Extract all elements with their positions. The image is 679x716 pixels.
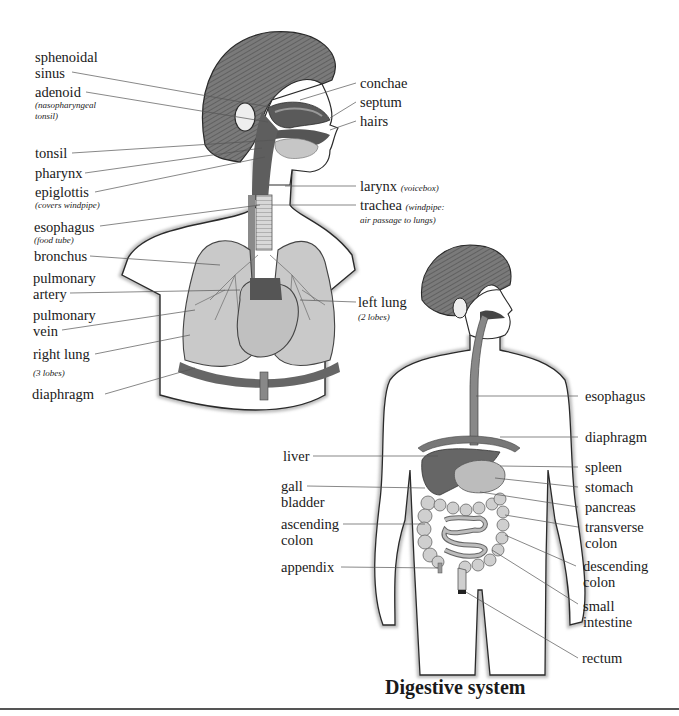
label-text: liver xyxy=(283,448,310,464)
label-line: transverse xyxy=(585,519,644,535)
label-note: tonsil) xyxy=(35,111,96,122)
label-line: gall xyxy=(281,478,303,494)
label-text: rectum xyxy=(582,650,622,666)
anatomy-illustrations xyxy=(0,0,679,716)
label-text: hairs xyxy=(360,113,388,129)
label-line: bladder xyxy=(281,494,324,510)
label-note: (windpipe: xyxy=(405,202,444,212)
label-left-lung: left lung (2 lobes) xyxy=(358,294,407,323)
label-conchae: conchae xyxy=(360,75,408,91)
label-sphenoidal-sinus: sphenoidal sinus xyxy=(35,49,98,81)
bottom-divider xyxy=(0,708,679,710)
label-line: descending xyxy=(583,558,648,574)
label-text: esophagus xyxy=(34,219,94,235)
label-line: artery xyxy=(33,286,67,302)
label-line: pulmonary xyxy=(33,270,96,286)
label-line: sinus xyxy=(35,65,65,81)
label-line: intestine xyxy=(583,614,632,630)
label-esophagus-dig: esophagus xyxy=(585,388,645,404)
label-hairs: hairs xyxy=(360,113,388,129)
label-text: trachea xyxy=(360,197,402,213)
label-note: (2 lobes) xyxy=(358,312,407,323)
label-bronchus: bronchus xyxy=(34,248,87,264)
label-larynx: larynx (voicebox) xyxy=(360,178,439,196)
label-text: left lung xyxy=(358,294,407,310)
label-descending-colon: descending colon xyxy=(583,558,648,590)
label-stomach: stomach xyxy=(585,479,633,495)
label-note: (food tube) xyxy=(34,235,94,246)
label-tonsil: tonsil xyxy=(35,145,67,161)
label-pulmonary-vein: pulmonary vein xyxy=(33,307,96,339)
label-right-lung: right lung (3 lobes) xyxy=(33,346,90,379)
label-note: (3 lobes) xyxy=(33,368,90,379)
label-pancreas: pancreas xyxy=(585,499,636,515)
label-text: spleen xyxy=(585,459,622,475)
label-text: pancreas xyxy=(585,499,636,515)
label-line: colon xyxy=(585,535,617,551)
label-note: (covers windpipe) xyxy=(35,200,100,211)
label-note: (nasopharyngeal xyxy=(35,100,96,111)
label-text: bronchus xyxy=(34,248,87,264)
label-line: colon xyxy=(281,532,313,548)
respiratory-figure xyxy=(122,32,355,410)
label-note: air passage to lungs) xyxy=(360,215,444,226)
label-line: sphenoidal xyxy=(35,49,98,65)
label-text: diaphragm xyxy=(32,386,94,402)
label-text: stomach xyxy=(585,479,633,495)
label-note: (voicebox) xyxy=(401,183,439,193)
label-text: appendix xyxy=(281,559,334,575)
label-text: conchae xyxy=(360,75,408,91)
label-diaphragm-resp: diaphragm xyxy=(32,386,94,402)
label-pulmonary-artery: pulmonary artery xyxy=(33,270,96,302)
label-septum: septum xyxy=(360,94,402,110)
label-adenoid: adenoid (nasopharyngeal tonsil) xyxy=(35,84,96,122)
label-text: epiglottis xyxy=(35,184,89,200)
label-text: tonsil xyxy=(35,145,67,161)
label-line: small xyxy=(583,598,614,614)
label-text: diaphragm xyxy=(585,429,647,445)
label-line: colon xyxy=(583,574,615,590)
label-text: larynx xyxy=(360,178,397,194)
label-spleen: spleen xyxy=(585,459,622,475)
label-line: vein xyxy=(33,323,58,339)
label-rectum: rectum xyxy=(582,650,622,666)
label-trachea: trachea (windpipe: air passage to lungs) xyxy=(360,197,444,226)
label-text: pharynx xyxy=(35,165,83,181)
label-esophagus-resp: esophagus (food tube) xyxy=(34,219,94,246)
label-text: esophagus xyxy=(585,388,645,404)
digestive-system-caption: Digestive system xyxy=(385,676,526,699)
label-text: adenoid xyxy=(35,84,81,100)
label-pharynx: pharynx xyxy=(35,165,83,181)
label-line: ascending xyxy=(281,516,339,532)
label-appendix: appendix xyxy=(281,559,334,575)
label-ascending-colon: ascending colon xyxy=(281,516,339,548)
label-diaphragm-dig: diaphragm xyxy=(585,429,647,445)
label-small-intestine: small intestine xyxy=(583,598,632,630)
label-text: right lung xyxy=(33,346,90,362)
label-epiglottis: epiglottis (covers windpipe) xyxy=(35,184,100,211)
label-liver: liver xyxy=(283,448,310,464)
label-gall-bladder: gall bladder xyxy=(281,478,324,510)
label-transverse-colon: transverse colon xyxy=(585,519,644,551)
label-text: septum xyxy=(360,94,402,110)
label-line: pulmonary xyxy=(33,307,96,323)
